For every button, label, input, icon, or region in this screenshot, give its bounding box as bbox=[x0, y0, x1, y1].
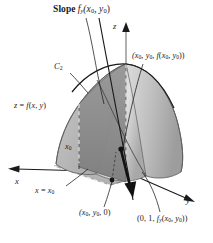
plane-equation-label: x = x0 bbox=[35, 187, 54, 196]
point-on-base-label: (x0, y0, 0) bbox=[79, 209, 110, 218]
curve-c2-label: C2 bbox=[54, 62, 63, 72]
point-on-surface-dot bbox=[118, 146, 123, 151]
x0-subscript: 0 bbox=[69, 145, 72, 151]
slope-word: Slope bbox=[53, 4, 76, 14]
tangent-vector-label: (0, 1, fy(x0, y0)) bbox=[137, 215, 187, 224]
slope-args-close: ) bbox=[107, 4, 110, 14]
point-on-surface-label: (x0, y0, f(x0, y0)) bbox=[132, 52, 185, 61]
figure-canvas bbox=[0, 0, 213, 243]
x-axis-label: x bbox=[15, 177, 19, 186]
leader-c2 bbox=[70, 73, 88, 93]
surface-equation-label: z = f(x, y) bbox=[14, 102, 46, 110]
y-axis-label: y bbox=[186, 196, 190, 205]
curve-subscript: 2 bbox=[60, 65, 63, 71]
leader-point-base bbox=[104, 182, 112, 207]
x0-tick-label: x0 bbox=[65, 143, 72, 152]
slope-args-open: (x bbox=[83, 4, 91, 14]
z-axis-label: z bbox=[113, 22, 116, 31]
slope-label: Slope fy(x0, y0) bbox=[53, 5, 110, 15]
partial-derivative-figure: Slope fy(x0, y0) (x0, y0, f(x0, y0)) C2 … bbox=[0, 0, 213, 243]
